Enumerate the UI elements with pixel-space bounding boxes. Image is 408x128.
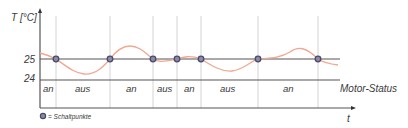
segment-label: an bbox=[43, 83, 54, 94]
segment-label: an bbox=[126, 83, 137, 94]
segment-label: an bbox=[184, 83, 195, 94]
segment-label: aus bbox=[220, 83, 236, 94]
temperature-curve bbox=[40, 46, 338, 74]
switch-lines bbox=[56, 16, 318, 108]
switch-point-marker bbox=[150, 56, 156, 62]
legend-label: = Schaltpunkte bbox=[48, 113, 92, 121]
segment-label: aus bbox=[75, 83, 91, 94]
switch-point-marker bbox=[315, 56, 321, 62]
y-axis-label: T [°C] bbox=[11, 12, 37, 23]
legend-marker-icon bbox=[40, 113, 45, 118]
segment-label: an bbox=[283, 83, 294, 94]
y-tick-24: 24 bbox=[23, 73, 36, 84]
switch-point-marker bbox=[53, 56, 59, 62]
x-axis-label: t bbox=[347, 113, 351, 124]
y-tick-25: 25 bbox=[23, 54, 36, 65]
segment-label: aus bbox=[157, 83, 173, 94]
motor-status-label: Motor-Status bbox=[340, 83, 397, 94]
switch-point-marker bbox=[255, 56, 261, 62]
temperature-diagram: T [°C] 25 24 t Motor-Status an aus an au… bbox=[0, 0, 408, 128]
switch-point-marker bbox=[174, 56, 180, 62]
switch-point-marker bbox=[107, 56, 113, 62]
switch-point-marker bbox=[198, 56, 204, 62]
x-arrow-icon bbox=[351, 106, 356, 110]
y-arrow-icon bbox=[38, 8, 42, 13]
